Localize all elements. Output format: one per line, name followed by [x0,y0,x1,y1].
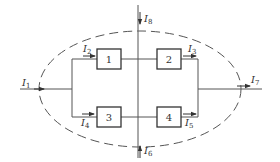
element-3-label: 3 [106,112,112,123]
element-1: 1 [97,49,121,69]
element-3: 3 [97,107,121,127]
label-i5: I5 [184,117,193,130]
label-i1: I1 [21,77,30,90]
element-4: 4 [157,107,181,127]
element-2: 2 [157,49,181,69]
label-i4: I4 [80,117,90,130]
element-2-label: 2 [166,54,172,65]
label-i7: I7 [250,74,259,87]
circuit-diagram: 1 2 3 4 I1 I2 I3 I4 I5 I6 I7 I8 [0,0,280,162]
element-1-label: 1 [106,54,112,65]
element-4-label: 4 [166,112,172,123]
label-i3: I3 [187,43,196,56]
label-i2: I2 [82,43,91,56]
label-i8: I8 [143,13,152,26]
